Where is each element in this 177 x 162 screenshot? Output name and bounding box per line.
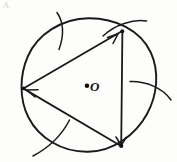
triangle-edge-bottom-to-left [24, 89, 121, 146]
vertex-dot-bottom-right [119, 144, 123, 148]
construction-arc-top-right [103, 21, 147, 36]
vertex-dot-top-right [120, 29, 124, 33]
center-point-dot [85, 84, 90, 89]
construction-arc-right [130, 81, 171, 100]
center-point-label: O [90, 80, 99, 94]
geometry-drawing-canvas [0, 0, 177, 162]
construction-arc-bottom-left [33, 120, 70, 156]
vertex-dot-left [22, 87, 26, 91]
geometry-figure: A. O [0, 0, 177, 162]
triangle-edge-right-vertical [121, 31, 122, 145]
construction-arc-top-left [57, 13, 62, 50]
